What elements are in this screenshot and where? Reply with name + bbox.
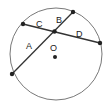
label-a: A [26,41,32,51]
point-center [53,55,57,59]
chord-cd [23,24,100,43]
point-chord-cd-right [98,41,102,45]
geometry-diagram: C B D A O [0,0,108,108]
label-o: O [50,43,57,53]
chord-ab [12,12,73,74]
point-chord-cd-left [21,22,25,26]
point-intersection [52,29,56,33]
label-d: D [76,29,83,39]
point-chord-ab-bottom [10,72,14,76]
label-b: B [56,15,62,25]
label-c: C [36,19,43,29]
point-chord-ab-top [71,10,75,14]
